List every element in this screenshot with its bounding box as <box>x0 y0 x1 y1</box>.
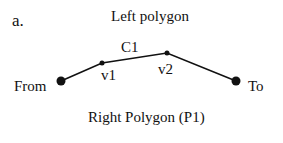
edge-c1-line <box>61 53 236 81</box>
to-label: To <box>248 79 264 94</box>
from-label: From <box>14 79 47 94</box>
diagram-canvas: a. Left polygon C1 From v1 v2 To Right P… <box>0 0 283 143</box>
panel-label: a. <box>12 12 24 29</box>
edge-label: C1 <box>121 40 139 55</box>
v2-vertex-icon <box>165 51 170 56</box>
left-polygon-label: Left polygon <box>111 9 189 24</box>
right-polygon-label: Right Polygon (P1) <box>88 110 205 125</box>
v1-label: v1 <box>101 68 116 83</box>
to-node-icon <box>232 77 241 86</box>
v1-vertex-icon <box>100 61 105 66</box>
from-node-icon <box>57 77 66 86</box>
v2-label: v2 <box>158 62 173 77</box>
